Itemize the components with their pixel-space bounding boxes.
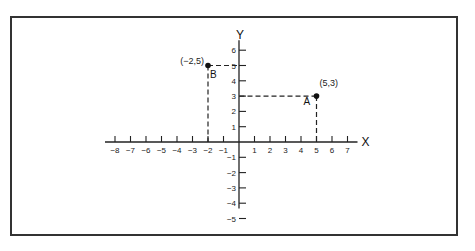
x-tick-label: 1	[252, 146, 257, 155]
point-a	[314, 93, 320, 99]
y-tick-label: 6	[232, 46, 237, 55]
x-tick-label: −4	[172, 146, 182, 155]
x-tick-label: −3	[188, 146, 198, 155]
cropped-caption	[30, 244, 450, 248]
x-tick-label: 2	[268, 146, 273, 155]
axis-ticks: −8−7−6−5−4−3−2−11234567654321−1−2−3−4−5	[110, 46, 350, 223]
x-tick-label: 6	[330, 146, 335, 155]
x-tick-label: 7	[345, 146, 350, 155]
x-tick-label: −8	[110, 146, 120, 155]
coordinate-plane: −8−7−6−5−4−3−2−11234567654321−1−2−3−4−5 …	[0, 0, 475, 251]
x-axis-label: X	[362, 135, 370, 149]
y-tick-label: 4	[232, 77, 237, 86]
data-points: (5,3)A(−2,5)B	[180, 56, 338, 108]
x-tick-label: 3	[283, 146, 288, 155]
x-tick-label: −5	[157, 146, 167, 155]
point-name-label: A	[304, 96, 311, 107]
y-tick-label: −2	[227, 169, 237, 178]
x-tick-label: 4	[299, 146, 304, 155]
x-tick-label: −2	[203, 146, 213, 155]
y-tick-label: 3	[232, 92, 237, 101]
point-coords-label: (−2,5)	[180, 56, 204, 66]
y-tick-label: 1	[232, 123, 237, 132]
x-tick-label: −6	[141, 146, 151, 155]
point-coords-label: (5,3)	[320, 78, 339, 88]
y-tick-label: 2	[232, 107, 237, 116]
y-tick-label: −5	[227, 215, 237, 224]
point-b	[205, 63, 211, 69]
y-tick-label: −1	[227, 153, 237, 162]
dashed-guides	[208, 66, 317, 143]
y-tick-label: −3	[227, 184, 237, 193]
x-tick-label: 5	[314, 146, 319, 155]
y-tick-label: −4	[227, 199, 237, 208]
point-name-label: B	[210, 69, 217, 80]
x-tick-label: −7	[126, 146, 136, 155]
y-axis-label: Y	[236, 28, 244, 42]
